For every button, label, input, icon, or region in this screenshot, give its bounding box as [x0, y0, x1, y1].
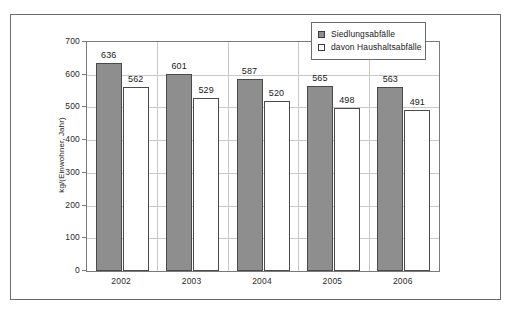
y-axis-tick-label: 300 [65, 167, 80, 177]
y-axis-tick-label: 0 [75, 265, 80, 275]
legend-item-label: davon Haushaltsabfälle [331, 42, 422, 52]
bar-value-label: 601 [171, 61, 186, 71]
bar-davon-haushaltsabfälle-2005 [334, 108, 360, 271]
bar-siedlungsabfälle-2004 [237, 79, 263, 271]
bar-value-label: 520 [269, 88, 284, 98]
gridline-vertical [369, 42, 370, 271]
bar-davon-haushaltsabfälle-2003 [193, 98, 219, 271]
y-axis-tick-label: 700 [65, 36, 80, 46]
x-axis-tick-label-2004: 2004 [252, 276, 272, 286]
legend-swatch-icon [318, 44, 325, 51]
x-axis-tick-label-2006: 2006 [393, 276, 413, 286]
bar-siedlungsabfälle-2003 [166, 74, 192, 271]
bar-value-label: 636 [101, 50, 116, 60]
y-axis-tick-label: 400 [65, 134, 80, 144]
y-axis: 0100200300400500600700 [52, 41, 86, 272]
bar-value-label: 587 [242, 66, 257, 76]
x-axis-tick-label-2003: 2003 [182, 276, 202, 286]
bar-davon-haushaltsabfälle-2002 [123, 87, 149, 271]
x-axis-tick-label-2005: 2005 [323, 276, 343, 286]
legend-item-2: davon Haushaltsabfälle [318, 41, 419, 53]
y-axis-tick-label: 500 [65, 101, 80, 111]
y-axis-tick-label: 100 [65, 232, 80, 242]
bar-value-label: 563 [383, 74, 398, 84]
legend-swatch-icon [318, 31, 325, 38]
bar-siedlungsabfälle-2005 [307, 86, 333, 271]
bar-value-label: 529 [198, 85, 213, 95]
bar-siedlungsabfälle-2006 [377, 87, 403, 271]
y-axis-tick-label: 600 [65, 69, 80, 79]
legend-item-label: Siedlungsabfälle [331, 29, 395, 39]
legend-item-1: Siedlungsabfälle [318, 28, 419, 40]
bar-value-label: 562 [128, 74, 143, 84]
y-axis-tick-label: 200 [65, 200, 80, 210]
plot-area: 636562601529587520565498563491 [86, 41, 440, 272]
bar-value-label: 498 [339, 95, 354, 105]
bar-davon-haushaltsabfälle-2006 [404, 110, 430, 271]
gridline-vertical [228, 42, 229, 271]
x-axis-tick-label-2002: 2002 [111, 276, 131, 286]
bar-value-label: 491 [410, 97, 425, 107]
bar-davon-haushaltsabfälle-2004 [264, 101, 290, 271]
bar-value-label: 565 [312, 73, 327, 83]
chart-legend: Siedlungsabfälledavon Haushaltsabfälle [311, 22, 426, 60]
bar-siedlungsabfälle-2002 [96, 63, 122, 271]
gridline-vertical [298, 42, 299, 271]
x-axis: 20022003200420052006 [86, 276, 440, 292]
gridline-vertical [157, 42, 158, 271]
